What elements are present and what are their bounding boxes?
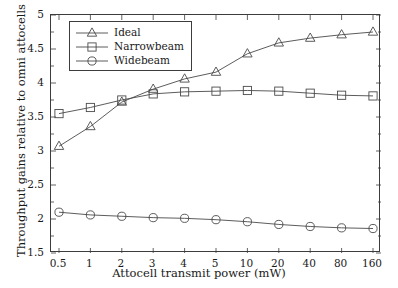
legend-label: Ideal xyxy=(109,26,141,38)
data-point-triangle xyxy=(305,33,314,41)
legend-item-widebeam[interactable]: Widebeam xyxy=(75,53,184,67)
x-axis-title: Attocell transmit power (mW) xyxy=(0,266,398,280)
series-narrowbeam xyxy=(55,86,377,117)
data-point-triangle xyxy=(54,141,63,149)
series-widebeam xyxy=(55,208,377,233)
circle-marker-icon xyxy=(75,53,109,67)
data-point-triangle xyxy=(211,67,220,75)
legend-item-narrowbeam[interactable]: Narrowbeam xyxy=(75,39,184,53)
square-marker-icon xyxy=(75,39,109,53)
legend-item-ideal[interactable]: Ideal xyxy=(75,25,184,39)
chart-figure: 1.522.533.544.55 0.51234510204080160 Att… xyxy=(0,0,398,288)
y-axis-title: Throughput gains relative to omni attoce… xyxy=(14,7,28,257)
data-point-triangle xyxy=(337,30,346,38)
legend-label: Widebeam xyxy=(109,54,170,66)
legend-label: Narrowbeam xyxy=(109,40,184,52)
data-point-triangle xyxy=(368,27,377,35)
chart-legend: IdealNarrowbeamWidebeam xyxy=(69,21,192,71)
data-point-triangle xyxy=(274,38,283,46)
triangle-marker-icon xyxy=(75,25,109,39)
